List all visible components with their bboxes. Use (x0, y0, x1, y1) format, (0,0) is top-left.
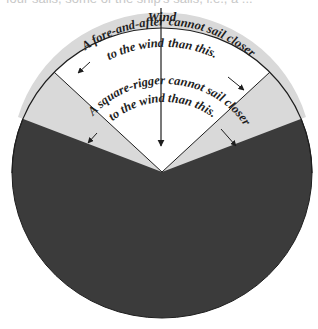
wind-sector-diagram: Wind A fore-and-after cannot sail closer… (0, 0, 318, 329)
